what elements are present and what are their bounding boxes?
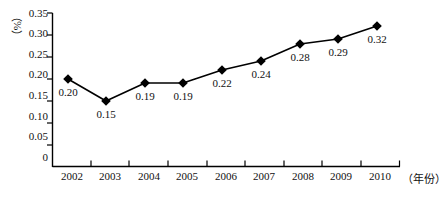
x-axis-unit-label: （年份） — [402, 170, 439, 186]
data-label-2007: 0.24 — [241, 68, 281, 80]
data-line-series — [68, 26, 377, 101]
x-tick-label-2007: 2007 — [244, 170, 284, 182]
line-chart: （%） 0.35 0.30 0.25 0.20 0.15 0.10 0.05 0 — [0, 0, 439, 200]
x-tick-label-2009: 2009 — [321, 170, 361, 182]
x-tick-label-2005: 2005 — [167, 170, 207, 182]
data-label-2003: 0.15 — [86, 108, 126, 120]
data-point-markers — [63, 21, 382, 106]
data-label-2009: 0.29 — [318, 46, 358, 58]
data-point-2009 — [333, 34, 343, 44]
data-label-2005: 0.19 — [163, 90, 203, 102]
data-point-2003 — [101, 96, 111, 106]
data-point-2004 — [140, 78, 150, 88]
data-point-2002 — [63, 74, 73, 84]
data-point-2010 — [372, 21, 382, 31]
data-point-2007 — [256, 56, 266, 66]
x-tick-label-2002: 2002 — [52, 170, 92, 182]
x-tick-label-2010: 2010 — [360, 170, 400, 182]
x-tick-label-2006: 2006 — [206, 170, 246, 182]
x-tick-label-2003: 2003 — [90, 170, 130, 182]
x-tick-label-2008: 2008 — [283, 170, 323, 182]
data-label-2008: 0.28 — [280, 51, 320, 63]
data-label-2002: 0.20 — [48, 86, 88, 98]
x-tick-label-2004: 2004 — [129, 170, 169, 182]
data-point-2008 — [295, 39, 305, 49]
x-axis-ticks — [91, 161, 400, 167]
data-label-2010: 0.32 — [357, 33, 397, 45]
y-axis-ticks — [47, 13, 53, 145]
data-label-2004: 0.19 — [125, 90, 165, 102]
data-label-2006: 0.22 — [202, 77, 242, 89]
data-point-2005 — [178, 78, 188, 88]
data-point-2006 — [217, 65, 227, 75]
